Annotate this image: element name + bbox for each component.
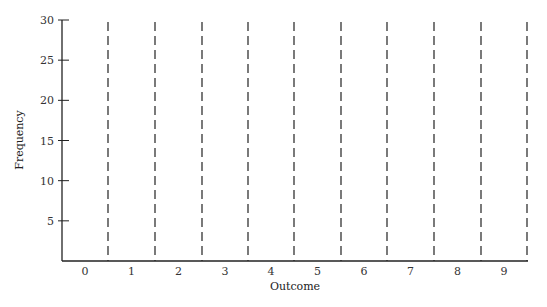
y-axis-title: Frequency [13,109,26,169]
x-tick-label: 1 [128,265,135,278]
y-tick-label: 25 [40,54,54,67]
y-tick-label: 10 [40,175,54,188]
x-tick-label: 4 [268,265,275,278]
bin-dividers [108,22,527,261]
frequency-chart: 51015202530 0123456789 Outcome Frequency [0,0,547,307]
x-axis-title: Outcome [270,280,320,293]
x-tick-label: 6 [361,265,368,278]
y-tick-label: 15 [40,135,54,148]
x-tick-label: 0 [82,265,89,278]
x-tick-labels: 0123456789 [82,265,508,278]
x-tick-label: 5 [314,265,321,278]
y-tick-label: 20 [40,94,54,107]
x-tick-label: 9 [501,265,508,278]
x-tick-label: 3 [222,265,229,278]
x-tick-label: 7 [407,265,414,278]
y-tick-label: 5 [47,215,54,228]
x-tick-label: 2 [175,265,182,278]
x-tick-label: 8 [454,265,461,278]
y-tick-label: 30 [40,14,54,27]
y-ticks: 51015202530 [40,14,69,228]
